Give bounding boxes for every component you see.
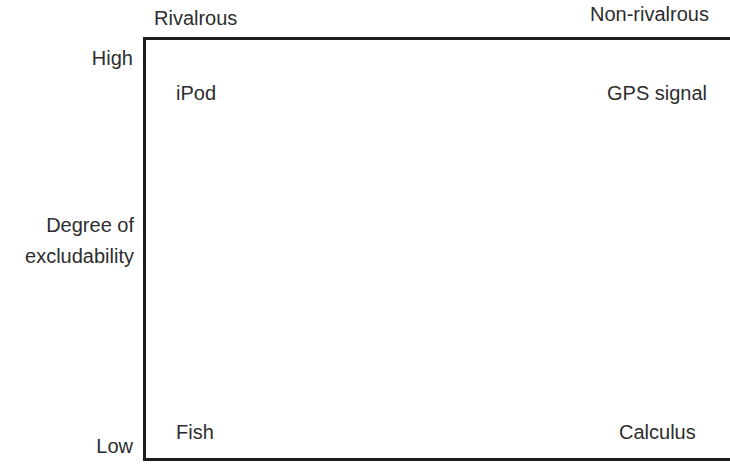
cell-label-low-rivalrous: Fish <box>176 420 214 444</box>
row-label-low: Low <box>96 434 133 459</box>
cell-label-low-non-rivalrous: Calculus <box>619 420 696 444</box>
x-axis-top-line <box>143 37 730 40</box>
y-axis-title: Degree of excludability <box>0 210 134 272</box>
x-axis-bottom-line <box>143 458 730 461</box>
y-axis-title-line-1: Degree of <box>0 210 134 241</box>
column-header-rivalrous: Rivalrous <box>154 6 237 30</box>
column-header-non-rivalrous: Non-rivalrous <box>590 2 709 26</box>
excludability-rivalry-matrix: Rivalrous Non-rivalrous High Degree of e… <box>0 0 730 464</box>
row-label-high: High <box>92 46 133 71</box>
y-axis-line <box>143 37 146 461</box>
cell-label-high-non-rivalrous: GPS signal <box>607 81 707 105</box>
cell-label-high-rivalrous: iPod <box>176 81 216 105</box>
y-axis-title-line-2: excludability <box>0 241 134 272</box>
